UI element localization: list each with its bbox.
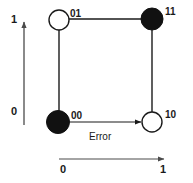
- x-axis-tick-left: 0: [60, 164, 66, 175]
- node-11: [141, 8, 163, 30]
- node-label-10: 10: [165, 110, 176, 120]
- y-axis-tick-top: 1: [11, 14, 17, 25]
- node-label-01: 01: [70, 9, 81, 19]
- node-00: [47, 111, 70, 134]
- diagram-canvas: [0, 0, 193, 183]
- node-label-00: 00: [71, 111, 82, 121]
- node-label-11: 11: [165, 7, 176, 17]
- node-10: [142, 112, 162, 132]
- edge-label-error: Error: [89, 132, 111, 142]
- node-01: [49, 10, 69, 30]
- x-axis-tick-right: 1: [160, 164, 166, 175]
- y-axis-tick-bottom: 0: [11, 106, 17, 117]
- state-diagram-figure: 01 11 00 10 Error 1 0 0 1: [0, 0, 193, 183]
